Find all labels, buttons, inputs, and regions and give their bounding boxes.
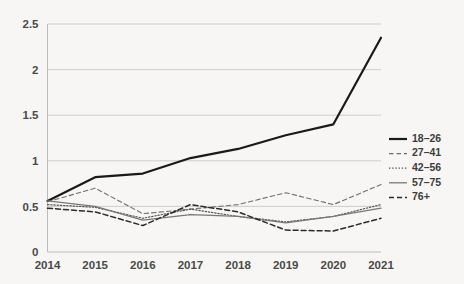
legend-label: 42–56: [412, 161, 441, 173]
legend-label: 27–41: [412, 146, 441, 158]
x-tick-label: 2014: [35, 259, 61, 271]
x-tick-label: 2016: [130, 259, 156, 271]
x-axis-tick-labels: 20142015201620172018201920202021: [35, 259, 395, 271]
chart-canvas: 00.511.522.5 201420152016201720182019202…: [0, 0, 464, 284]
y-tick-label: 1.5: [23, 109, 40, 121]
chart-legend: 18–2627–4142–5657–7576+: [389, 132, 441, 202]
line-chart: 00.511.522.5 201420152016201720182019202…: [0, 0, 464, 284]
y-tick-label: 2.5: [23, 18, 40, 30]
x-tick-label: 2018: [225, 259, 251, 271]
x-tick-label: 2015: [82, 259, 108, 271]
series-line-18-26: [48, 38, 382, 201]
y-axis-tick-labels: 00.511.522.5: [23, 18, 40, 258]
x-tick-label: 2017: [178, 259, 204, 271]
gridlines: [48, 24, 382, 252]
y-tick-label: 2: [32, 64, 38, 76]
x-tick-label: 2019: [273, 259, 299, 271]
y-tick-label: 1: [32, 155, 39, 167]
x-tick-label: 2020: [321, 259, 347, 271]
y-tick-label: 0.5: [23, 201, 40, 213]
series-lines: [48, 38, 382, 231]
series-line-76+: [48, 205, 382, 231]
x-tick-label: 2021: [368, 259, 394, 271]
series-line-27-41: [48, 185, 382, 214]
y-tick-label: 0: [32, 246, 38, 258]
legend-label: 18–26: [412, 132, 441, 144]
legend-label: 76+: [412, 190, 430, 202]
legend-label: 57–75: [412, 176, 441, 188]
